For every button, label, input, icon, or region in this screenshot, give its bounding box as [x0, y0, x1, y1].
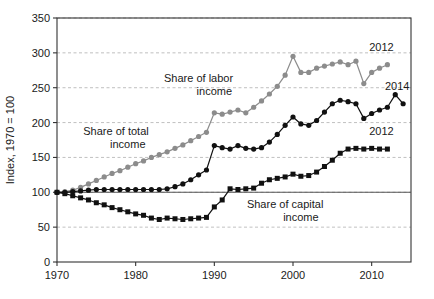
- y-tick-label: 300: [32, 47, 50, 59]
- series-marker-0: [259, 98, 264, 103]
- series-marker-0: [94, 178, 99, 183]
- series-marker-0: [361, 81, 366, 86]
- income-shares-line-chart: 0501001502002503003501970198019902000201…: [0, 0, 434, 299]
- series-marker-0: [141, 158, 146, 163]
- series-marker-0: [227, 110, 232, 115]
- series-marker-1: [283, 123, 288, 128]
- series-marker-2: [117, 207, 122, 212]
- series-marker-0: [298, 70, 303, 75]
- series-marker-2: [275, 176, 280, 181]
- series-marker-2: [86, 197, 91, 202]
- series-marker-2: [353, 146, 358, 151]
- series-marker-1: [322, 110, 327, 115]
- series-marker-0: [322, 64, 327, 69]
- y-tick-label: 100: [32, 186, 50, 198]
- series-marker-1: [102, 187, 107, 192]
- series-marker-0: [220, 112, 225, 117]
- series-marker-1: [306, 123, 311, 128]
- annotation-label: income: [197, 85, 232, 97]
- series-marker-2: [322, 164, 327, 169]
- series-marker-1: [125, 187, 130, 192]
- series-marker-0: [235, 107, 240, 112]
- series-marker-1: [204, 167, 209, 172]
- series-marker-2: [133, 211, 138, 216]
- series-marker-2: [283, 174, 288, 179]
- y-tick-label: 50: [38, 221, 50, 233]
- series-marker-0: [267, 91, 272, 96]
- series-marker-1: [157, 187, 162, 192]
- series-marker-1: [86, 188, 91, 193]
- series-marker-0: [369, 70, 374, 75]
- series-marker-0: [283, 73, 288, 78]
- series-marker-2: [62, 191, 67, 196]
- series-marker-2: [291, 172, 296, 177]
- series-marker-1: [212, 143, 217, 148]
- y-tick-label: 0: [44, 256, 50, 268]
- series-marker-2: [259, 181, 264, 186]
- series-marker-0: [204, 130, 209, 135]
- series-marker-2: [212, 204, 217, 209]
- series-marker-2: [149, 216, 154, 221]
- series-marker-1: [314, 118, 319, 123]
- series-marker-2: [243, 186, 248, 191]
- x-tick-label: 1980: [123, 269, 147, 281]
- series-marker-0: [125, 165, 130, 170]
- series-marker-1: [361, 116, 366, 121]
- series-marker-0: [196, 134, 201, 139]
- series-marker-0: [86, 181, 91, 186]
- series-marker-0: [330, 61, 335, 66]
- series-marker-1: [393, 92, 398, 97]
- series-marker-1: [298, 121, 303, 126]
- series-marker-2: [204, 215, 209, 220]
- series-marker-1: [338, 98, 343, 103]
- series-marker-1: [377, 107, 382, 112]
- series-marker-1: [385, 105, 390, 110]
- series-marker-2: [78, 195, 83, 200]
- series-line-2: [57, 148, 387, 219]
- annotation-label: income: [110, 138, 145, 150]
- series-marker-0: [353, 59, 358, 64]
- series-marker-1: [220, 145, 225, 150]
- series-marker-1: [369, 111, 374, 116]
- series-marker-0: [314, 66, 319, 71]
- series-marker-2: [346, 147, 351, 152]
- series-marker-0: [345, 62, 350, 67]
- series-marker-0: [243, 110, 248, 115]
- annotation-label: Share of total: [83, 125, 148, 137]
- series-marker-1: [109, 187, 114, 192]
- series-marker-2: [235, 187, 240, 192]
- series-marker-2: [125, 209, 130, 214]
- series-marker-2: [173, 216, 178, 221]
- series-marker-0: [377, 66, 382, 71]
- series-marker-1: [141, 187, 146, 192]
- series-marker-2: [385, 147, 390, 152]
- series-marker-2: [94, 200, 99, 205]
- y-tick-label: 350: [32, 12, 50, 24]
- series-marker-2: [70, 193, 75, 198]
- series-marker-1: [267, 139, 272, 144]
- series-marker-2: [157, 217, 162, 222]
- series-marker-0: [188, 138, 193, 143]
- y-tick-label: 150: [32, 151, 50, 163]
- series-marker-2: [361, 147, 366, 152]
- series-marker-1: [133, 187, 138, 192]
- series-line-1: [57, 95, 403, 193]
- series-marker-2: [165, 216, 170, 221]
- series-marker-1: [243, 146, 248, 151]
- series-marker-0: [212, 110, 217, 115]
- series-marker-2: [220, 197, 225, 202]
- series-marker-1: [353, 101, 358, 106]
- series-marker-2: [141, 213, 146, 218]
- series-marker-1: [401, 101, 406, 106]
- series-marker-2: [306, 173, 311, 178]
- y-axis-title: Index, 1970 = 100: [4, 96, 16, 184]
- series-marker-1: [117, 187, 122, 192]
- series-marker-2: [102, 202, 107, 207]
- series-marker-1: [188, 177, 193, 182]
- series-marker-0: [109, 171, 114, 176]
- y-tick-label: 200: [32, 117, 50, 129]
- series-marker-0: [172, 146, 177, 151]
- series-marker-1: [180, 181, 185, 186]
- series-marker-2: [110, 205, 115, 210]
- series-marker-2: [314, 170, 319, 175]
